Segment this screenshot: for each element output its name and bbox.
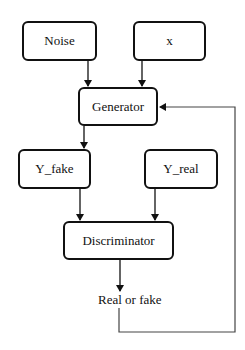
noise-node: Noise — [22, 21, 97, 61]
generator-label: Generator — [92, 99, 144, 115]
discriminator-node: Discriminator — [63, 221, 174, 260]
y-fake-node: Y_fake — [18, 149, 91, 189]
noise-label: Noise — [44, 33, 74, 49]
output-label: Real or fake — [98, 292, 162, 308]
x-label: x — [166, 33, 173, 49]
x-node: x — [133, 21, 206, 61]
y-real-label: Y_real — [163, 161, 198, 177]
y-real-node: Y_real — [144, 149, 218, 189]
generator-node: Generator — [78, 87, 158, 126]
y-fake-label: Y_fake — [35, 161, 73, 177]
discriminator-label: Discriminator — [82, 233, 154, 249]
